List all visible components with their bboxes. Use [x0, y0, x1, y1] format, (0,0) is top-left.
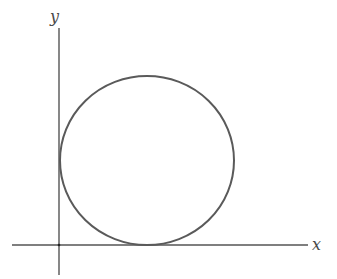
tangent-circle	[60, 76, 234, 245]
x-axis-label: x	[312, 235, 321, 254]
y-axis-label: y	[49, 7, 60, 26]
origin-point	[58, 244, 61, 247]
circle-diagram: y x	[0, 0, 337, 279]
